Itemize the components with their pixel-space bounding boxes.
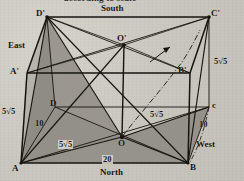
arrow-head-icon [163,47,170,53]
vertex-label-Cp: C' [211,9,220,18]
direction-label-north: North [100,168,123,177]
measure-label-edge-AB: 20 [102,155,113,164]
vertex-label-A: A [12,164,19,173]
spoke-Op-Cp [124,17,209,45]
vertex-label-Bp: B' [178,66,187,75]
measure-label-edge-AD: 10 [35,119,44,128]
dot-A [19,161,22,164]
vertex-label-D: D [50,99,57,108]
vertex-label-B: B [190,163,196,172]
vertex-label-C: c [212,101,216,110]
axis-O-Op [122,45,124,137]
dot-Dp [45,15,49,19]
vertex-label-Dp: D' [36,9,45,18]
measure-label-edge-BC: 10 [199,120,208,129]
direction-label-east: East [8,41,25,50]
direction-label-south: South [101,4,124,13]
dot-Op [122,43,126,47]
vertex-label-Ap: A' [10,67,19,76]
edge-Bp-Cp [190,17,209,73]
vertex-label-O: O [118,139,125,148]
direction-label-west: West [196,140,215,149]
measure-label-edge-AAp: 5√5 [2,107,15,116]
box-geometry-svg [0,0,244,181]
measure-label-diag-OC: 5√5 [150,110,163,119]
vertex-label-Op: O' [117,34,127,43]
measure-label-edge-CCp: 5√5 [214,57,227,66]
figure-canvas: according to scale [0,0,244,181]
measure-label-diag-AO: 5√5 [58,140,73,149]
